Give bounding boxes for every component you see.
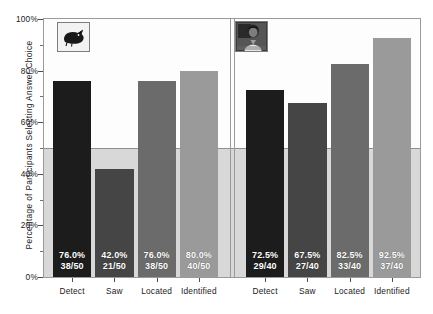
bar-percentage: 67.5%: [288, 250, 326, 261]
x-tick-mark: [392, 278, 393, 282]
x-tick-label-identified: Identified: [374, 286, 410, 296]
bar-value-label: 72.5%29/40: [246, 250, 284, 271]
bar-fraction: 38/50: [138, 261, 176, 272]
panel-divider-line-b: [234, 19, 235, 277]
y-tick-mark-major: [38, 277, 43, 278]
bar-value-label: 76.0%38/50: [53, 250, 91, 271]
bar-panel-right-identified[interactable]: 92.5%37/40: [373, 38, 411, 277]
bar-percentage: 76.0%: [53, 250, 91, 261]
bar-percentage: 76.0%: [138, 250, 176, 261]
dark-animal-silhouette-thumbnail: [57, 22, 90, 52]
x-tick-mark: [72, 278, 73, 282]
bar-panel-left-saw[interactable]: 42.0%21/50: [95, 169, 133, 277]
bar-fraction: 29/40: [246, 261, 284, 272]
bar-percentage: 80.0%: [180, 250, 218, 261]
bar-percentage: 72.5%: [246, 250, 284, 261]
bar-value-label: 80.0%40/50: [180, 250, 218, 271]
person-photo-thumbnail: [235, 21, 268, 52]
bar-value-label: 76.0%38/50: [138, 250, 176, 271]
bar-fraction: 38/50: [53, 261, 91, 272]
bar-fraction: 37/40: [373, 261, 411, 272]
panel-divider-line-a: [230, 19, 231, 277]
y-tick-mark-minor: [40, 45, 43, 46]
bar-panel-right-detect[interactable]: 72.5%29/40: [246, 90, 284, 277]
bar-fraction: 27/40: [288, 261, 326, 272]
y-tick-mark-minor: [40, 251, 43, 252]
y-tick-mark-minor: [40, 148, 43, 149]
bar-percentage: 42.0%: [95, 250, 133, 261]
bar-percentage: 92.5%: [373, 250, 411, 261]
bar-panel-right-saw[interactable]: 67.5%27/40: [288, 103, 326, 277]
bar-value-label: 82.5%33/40: [331, 250, 369, 271]
y-tick-label: 40%: [4, 169, 38, 179]
plot-area: 76.0%38/5042.0%21/5076.0%38/5080.0%40/50…: [43, 18, 421, 278]
y-tick-mark-major: [38, 122, 43, 123]
bar-fraction: 21/50: [95, 261, 133, 272]
bar-panel-left-identified[interactable]: 80.0%40/50: [180, 71, 218, 277]
bar-panel-left-located[interactable]: 76.0%38/50: [138, 81, 176, 277]
x-tick-mark: [114, 278, 115, 282]
bar-value-label: 92.5%37/40: [373, 250, 411, 271]
x-tick-mark: [350, 278, 351, 282]
bar-chart-figure: Percentage of Participants Selecting Ans…: [0, 0, 433, 314]
x-tick-label-located: Located: [141, 286, 172, 296]
bar-value-label: 42.0%21/50: [95, 250, 133, 271]
x-tick-mark: [265, 278, 266, 282]
x-tick-label-located: Located: [334, 286, 365, 296]
bar-fraction: 33/40: [331, 261, 369, 272]
y-tick-mark-major: [38, 71, 43, 72]
y-tick-label: 0%: [4, 272, 38, 282]
y-tick-label: 100%: [4, 14, 38, 24]
bar-fraction: 40/50: [180, 261, 218, 272]
x-tick-label-identified: Identified: [181, 286, 217, 296]
x-tick-label-saw: Saw: [299, 286, 316, 296]
x-tick-mark: [199, 278, 200, 282]
y-tick-mark-major: [38, 225, 43, 226]
y-tick-mark-minor: [40, 96, 43, 97]
y-tick-mark-major: [38, 174, 43, 175]
y-tick-mark-minor: [40, 200, 43, 201]
x-tick-mark: [307, 278, 308, 282]
y-tick-mark-major: [38, 19, 43, 20]
y-axis-tick-labels: 0%20%40%60%80%100%: [0, 0, 38, 314]
x-tick-label-detect: Detect: [60, 286, 85, 296]
y-tick-label: 60%: [4, 117, 38, 127]
x-tick-label-saw: Saw: [106, 286, 123, 296]
bar-percentage: 82.5%: [331, 250, 369, 261]
y-tick-label: 80%: [4, 66, 38, 76]
bar-panel-left-detect[interactable]: 76.0%38/50: [53, 81, 91, 277]
bar-panel-right-located[interactable]: 82.5%33/40: [331, 64, 369, 277]
bar-value-label: 67.5%27/40: [288, 250, 326, 271]
x-tick-mark: [157, 278, 158, 282]
x-tick-label-detect: Detect: [253, 286, 278, 296]
y-tick-label: 20%: [4, 220, 38, 230]
